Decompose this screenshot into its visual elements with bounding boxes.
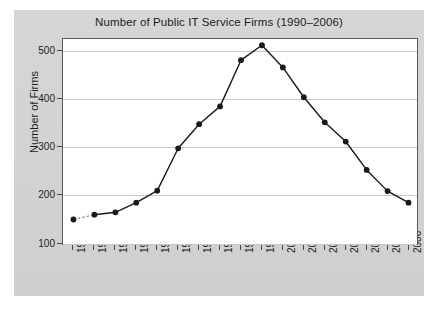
data-point-1998 xyxy=(238,57,244,63)
y-tick-label-300: 300 xyxy=(25,141,55,152)
data-point-1991 xyxy=(92,212,98,218)
y-tick-label-100: 100 xyxy=(25,237,55,248)
series-markers xyxy=(71,42,412,222)
chart-title: Number of Public IT Service Firms (1990–… xyxy=(14,16,424,28)
y-tick-label-500: 500 xyxy=(25,45,55,56)
data-point-1993 xyxy=(133,200,139,206)
faint-line-segment xyxy=(73,215,94,220)
data-point-1995 xyxy=(175,145,181,151)
series-line xyxy=(94,45,408,214)
data-point-2001 xyxy=(301,94,307,100)
y-tick-label-200: 200 xyxy=(25,189,55,200)
data-point-1990 xyxy=(71,217,77,223)
chart-figure: Number of Public IT Service Firms (1990–… xyxy=(14,10,424,296)
data-point-1999 xyxy=(259,42,265,48)
data-point-2006 xyxy=(406,200,412,206)
page-bleed-text xyxy=(6,26,8,36)
data-point-1992 xyxy=(112,209,118,215)
y-tick-label-400: 400 xyxy=(25,93,55,104)
plot-area xyxy=(62,38,418,245)
data-point-2005 xyxy=(385,188,391,194)
data-point-2003 xyxy=(343,139,349,145)
line-series xyxy=(63,39,419,246)
data-point-2004 xyxy=(364,167,370,173)
data-point-1996 xyxy=(196,121,202,127)
data-point-1994 xyxy=(154,188,160,194)
data-point-2002 xyxy=(322,119,328,125)
data-point-2000 xyxy=(280,65,286,71)
data-point-1997 xyxy=(217,104,223,110)
y-axis-title: Number of Firms xyxy=(28,52,40,172)
